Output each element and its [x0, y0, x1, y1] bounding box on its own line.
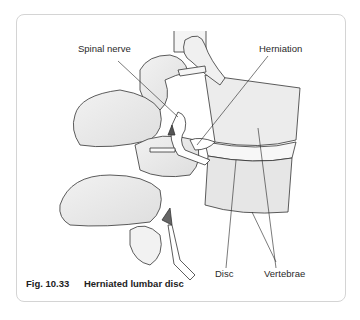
lower-vertebra: [205, 156, 292, 213]
herniated-disc-illustration: [0, 0, 360, 320]
figure-number: Fig. 10.33: [26, 278, 69, 289]
figure-caption: Fig. 10.33 Herniated lumbar disc: [26, 278, 184, 289]
label-disc: Disc: [215, 268, 233, 279]
label-vertebrae: Vertebrae: [264, 268, 305, 279]
figure-title: Herniated lumbar disc: [84, 278, 184, 289]
label-spinal-nerve: Spinal nerve: [78, 43, 131, 54]
label-herniation: Herniation: [259, 43, 302, 54]
upper-vertebra: [205, 75, 300, 146]
